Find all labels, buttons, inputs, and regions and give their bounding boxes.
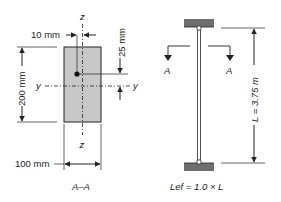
bar-offset-label: 10 mm (31, 29, 60, 40)
column-diagram: z z y y 10 mm 25 mm 200 mm 100 mm A–A A … (0, 0, 281, 202)
top-pin (197, 26, 201, 30)
effective-length-label: Lef = 1.0 × L (170, 181, 223, 192)
z-axis-label-top: z (79, 11, 85, 22)
y-axis-label-left: y (35, 80, 42, 91)
column-elevation: A A L = 3.75 m Lef = 1.0 × L (163, 19, 265, 192)
bottom-pin (197, 160, 201, 164)
cross-section: z z y y 10 mm 25 mm 200 mm 100 mm A–A (15, 11, 139, 192)
z-axis-label-bottom: z (79, 139, 85, 150)
section-title: A–A (71, 181, 90, 192)
cover-label: 25 mm (116, 28, 127, 57)
y-axis-label-right: y (132, 80, 139, 91)
height-label: 200 mm (16, 72, 27, 106)
length-label: L = 3.75 m (249, 77, 260, 122)
section-mark-left: A (163, 65, 170, 76)
section-mark-right: A (225, 65, 232, 76)
width-label: 100 mm (15, 158, 49, 169)
